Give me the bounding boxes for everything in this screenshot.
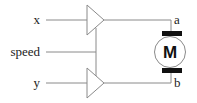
wire-b [104,72,171,83]
output-label-b: b [174,75,181,90]
output-label-a: a [174,12,180,27]
motor-symbol: M [163,43,177,62]
motor-brush-bottom [162,68,182,73]
input-label-y: y [34,75,41,90]
diagram-svg: x speed y a b M [0,0,197,103]
wire-a [104,20,171,31]
input-label-speed: speed [10,44,40,59]
motor-driver-diagram: x speed y a b M [0,0,197,103]
input-label-x: x [34,12,41,27]
motor-brush-top [162,31,182,36]
